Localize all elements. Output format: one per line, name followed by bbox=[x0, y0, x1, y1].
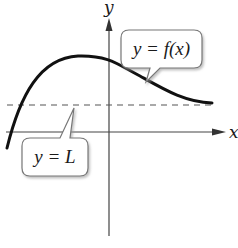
graph-svg: y x y = f(x) y = L bbox=[0, 0, 238, 248]
y-axis bbox=[106, 18, 113, 236]
y-axis-arrow-icon bbox=[106, 18, 113, 31]
callout-curve-label: y = f(x) bbox=[131, 38, 190, 60]
x-axis-label: x bbox=[229, 122, 238, 142]
callout-asymptote-label: y = L bbox=[32, 146, 75, 167]
y-axis-label: y bbox=[103, 0, 114, 17]
diagram-canvas: y x y = f(x) y = L bbox=[0, 0, 238, 248]
x-axis-arrow-icon bbox=[212, 129, 226, 136]
x-axis bbox=[6, 129, 226, 136]
